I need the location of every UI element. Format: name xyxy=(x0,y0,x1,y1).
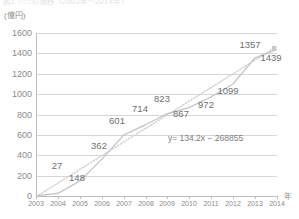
data-label-2006: 362 xyxy=(87,140,111,151)
regression-equation-label: y= 134.2x − 268855 xyxy=(168,133,243,143)
data-label-2012: 1099 xyxy=(213,85,243,96)
page-title: 図1 ○○○の推移（2003年～2014年） xyxy=(3,0,128,6)
y-tick-label-1200: 1200 xyxy=(2,69,32,79)
y-tick-label-1000: 1000 xyxy=(2,89,32,99)
y-tick-label-800: 800 xyxy=(2,110,32,120)
data-label-2014: 1439 xyxy=(256,52,286,63)
chart-container: 図1 ○○○の推移（2003年～2014年） (億円) 1600 1400 12… xyxy=(0,0,299,219)
data-label-2007: 601 xyxy=(105,115,129,126)
y-tick-label-600: 600 xyxy=(2,130,32,140)
data-label-2011: 972 xyxy=(194,99,218,110)
data-label-2010: 867 xyxy=(169,108,193,119)
chart-title-strip: 図1 ○○○の推移（2003年～2014年） xyxy=(0,0,299,8)
data-label-2013: 1357 xyxy=(235,39,265,50)
data-label-2009: 823 xyxy=(150,93,174,104)
data-label-2005: 148 xyxy=(65,172,89,183)
y-axis-unit-label: (億円) xyxy=(4,9,25,20)
y-tick-label-400: 400 xyxy=(2,150,32,160)
series-marker-icon xyxy=(272,46,276,50)
y-tick-label-1400: 1400 xyxy=(2,48,32,58)
x-tick-2014 xyxy=(277,196,278,199)
data-label-2008: 714 xyxy=(128,103,152,114)
data-label-2004: 27 xyxy=(48,160,66,171)
y-tick-label-1600: 1600 xyxy=(2,28,32,38)
y-tick-label-200: 200 xyxy=(2,171,32,181)
x-tick-label-2014: 2014 xyxy=(264,200,290,207)
x-axis-name-label: 年 xyxy=(284,190,291,201)
